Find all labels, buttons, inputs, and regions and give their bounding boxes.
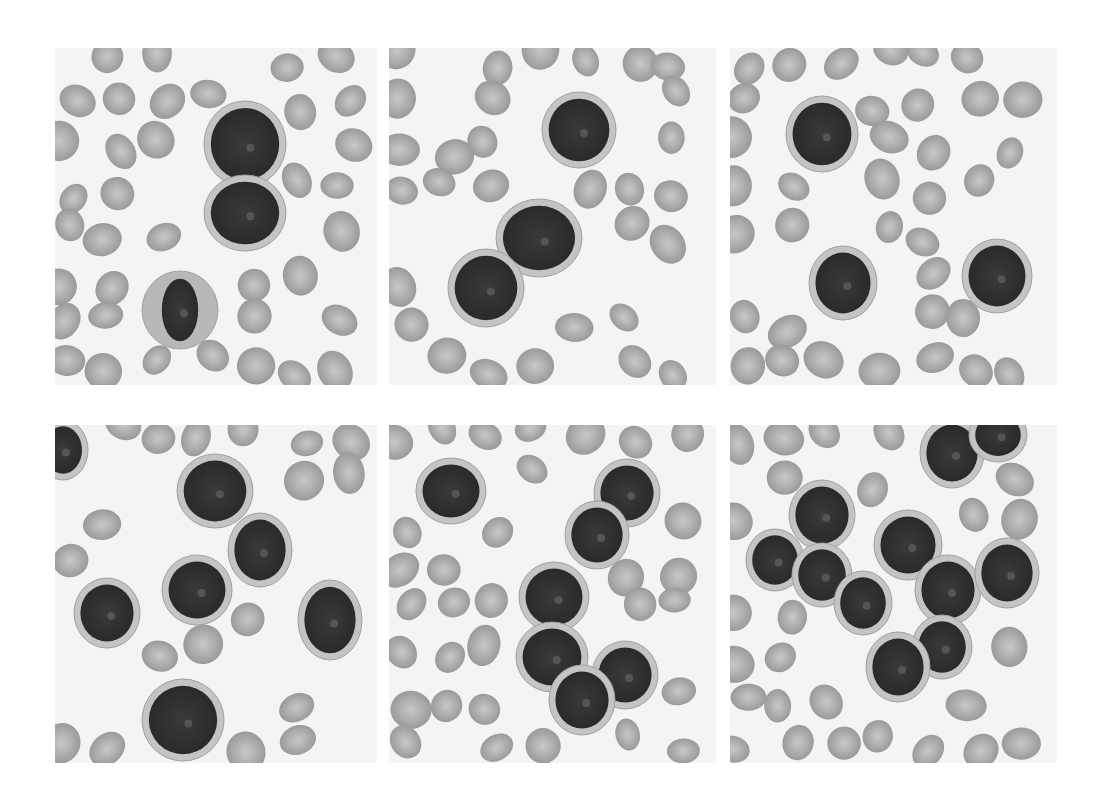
lymphocyte-cell	[74, 578, 140, 648]
micrograph-panel-top-middle	[389, 48, 716, 385]
lymphocyte-cell	[228, 513, 292, 587]
red-blood-cell	[1002, 727, 1041, 759]
lymphocyte-cell	[416, 458, 486, 524]
lymphocyte-cell	[542, 92, 616, 168]
lymphocyte-cell	[565, 501, 629, 569]
lymphocyte-cell	[786, 96, 858, 172]
micrograph-panel-bottom-middle	[389, 425, 716, 763]
granulocyte-cell	[142, 271, 218, 349]
micrograph-panel-bottom-left	[55, 425, 377, 763]
lymphocyte-cell	[834, 571, 892, 635]
lymphocyte-cell	[809, 246, 877, 320]
lymphocyte-cell	[142, 679, 224, 761]
lymphocyte-cell	[519, 562, 589, 632]
micrograph-panel-top-left	[55, 48, 377, 385]
lymphocyte-cell	[789, 480, 855, 550]
lymphocyte-cell	[162, 555, 232, 625]
lymphocyte-cell	[298, 580, 362, 660]
lymphocyte-cell	[866, 632, 930, 702]
lymphocyte-cell	[975, 538, 1039, 608]
micrograph-panel-bottom-right	[730, 425, 1057, 763]
lymphocyte-cell	[204, 175, 286, 251]
red-blood-cell	[320, 172, 353, 198]
lymphocyte-cell	[962, 239, 1032, 313]
lymphocyte-cell	[448, 249, 524, 327]
lymphocyte-cell	[915, 555, 981, 625]
lymphocyte-cell	[204, 101, 286, 187]
lymphocyte-cell	[549, 665, 615, 735]
lymphocyte-cell	[177, 454, 253, 528]
micrograph-panel-top-right	[730, 48, 1057, 385]
